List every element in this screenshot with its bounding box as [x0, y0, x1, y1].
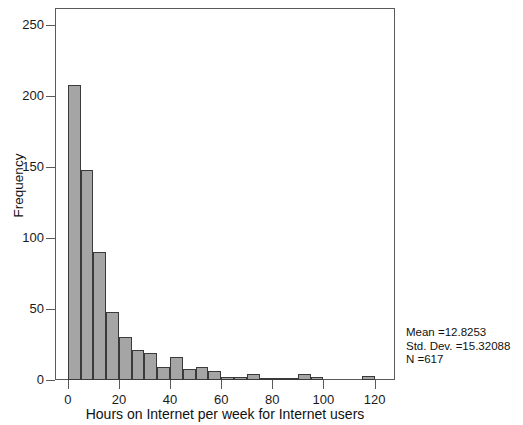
y-axis-tick	[46, 96, 55, 97]
histogram-bar	[272, 378, 285, 380]
y-axis-title: Frequency	[11, 126, 26, 246]
y-axis-tick	[46, 25, 55, 26]
y-axis-tick-label: 200	[0, 88, 44, 103]
x-axis-tick-label: 60	[201, 392, 241, 407]
x-axis-tick-label: 80	[252, 392, 292, 407]
x-axis-tick-label: 120	[355, 392, 395, 407]
stats-mean: Mean =12.8253	[406, 326, 510, 340]
histogram-bar	[196, 367, 209, 380]
x-axis-tick-label: 0	[48, 392, 88, 407]
stats-std-dev: Std. Dev. =15.32088	[406, 340, 510, 354]
stats-n: N =617	[406, 353, 510, 367]
y-axis-tick-label: 250	[0, 17, 44, 32]
x-axis-tick	[68, 380, 69, 389]
histogram-bar	[144, 353, 157, 380]
histogram-bar	[157, 367, 170, 380]
histogram-bar	[285, 378, 298, 380]
histogram-bar	[208, 371, 221, 380]
histogram-bar	[234, 377, 247, 380]
y-axis-tick-label: 0	[0, 372, 44, 387]
x-axis-tick	[170, 380, 171, 389]
x-axis-tick	[221, 380, 222, 389]
y-axis-tick	[46, 238, 55, 239]
x-axis-title: Hours on Internet per week for Internet …	[55, 406, 395, 422]
y-axis-tick	[46, 380, 55, 381]
y-axis-tick-label: 50	[0, 301, 44, 316]
histogram-bar	[119, 337, 132, 380]
x-axis-tick-label: 20	[99, 392, 139, 407]
histogram-bar	[93, 252, 106, 380]
x-axis-tick	[375, 380, 376, 389]
histogram-bar	[170, 357, 183, 380]
histogram-screenshot: 050100150200250 020406080100120 Frequenc…	[0, 0, 523, 425]
x-axis-tick	[272, 380, 273, 389]
histogram-bar	[132, 350, 145, 380]
histogram-bar	[106, 312, 119, 380]
histogram-bar	[68, 85, 81, 380]
histogram-bar	[260, 378, 273, 380]
x-axis-tick	[119, 380, 120, 389]
histogram-bar	[362, 376, 375, 380]
histogram-bar	[298, 374, 311, 380]
histogram-bar	[183, 369, 196, 380]
histogram-bar	[81, 170, 94, 380]
histogram-bars	[55, 8, 395, 380]
histogram-bar	[221, 377, 234, 380]
x-axis-tick-label: 40	[150, 392, 190, 407]
statistics-annotation: Mean =12.8253 Std. Dev. =15.32088 N =617	[406, 326, 510, 367]
y-axis-tick	[46, 167, 55, 168]
x-axis-tick	[323, 380, 324, 389]
x-axis-tick-label: 100	[303, 392, 343, 407]
histogram-bar	[311, 377, 324, 380]
y-axis-tick	[46, 309, 55, 310]
histogram-bar	[247, 374, 260, 380]
